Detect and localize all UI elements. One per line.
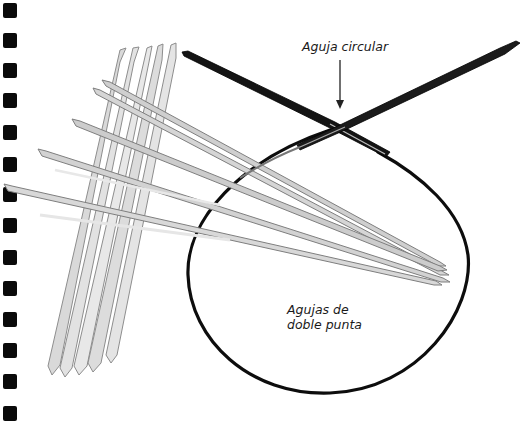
label-double-pointed-needles: Agujas de doble punta	[287, 302, 362, 332]
annotation-arrow	[336, 60, 344, 109]
book-page: Aguja circular Agujas de doble punta	[0, 0, 528, 426]
label-circular-needle: Aguja circular	[302, 39, 388, 54]
label-dpn-line-2: doble punta	[287, 317, 362, 332]
label-dpn-line-1: Agujas de	[287, 302, 362, 317]
circular-needle	[182, 41, 520, 178]
knitting-needles-photo	[0, 0, 528, 426]
